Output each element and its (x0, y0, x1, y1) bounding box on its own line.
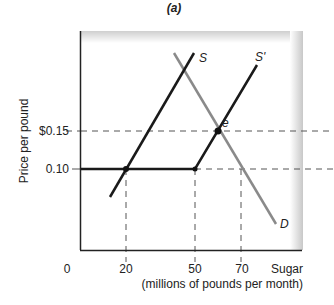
label-e: e (222, 116, 229, 130)
x-axis-label-line1: Sugar (271, 262, 303, 276)
panel-label: (a) (167, 1, 182, 15)
supply-curve-S-prime (81, 65, 257, 169)
point-20-0.10 (123, 166, 129, 172)
x-tick-70: 70 (235, 262, 249, 276)
label-S-prime: S' (255, 50, 266, 64)
y-tick-0.10: 0.10 (46, 162, 70, 176)
point-50-0.10 (193, 167, 198, 172)
x-tick-20: 20 (119, 262, 133, 276)
y-tick-0.15: $0.15 (39, 124, 69, 138)
x-tick-50: 50 (188, 262, 202, 276)
top-shade (81, 31, 302, 43)
supply-demand-chart: (a) S S' e D $0.15 0.10 Price per pound … (0, 0, 334, 305)
right-shade (290, 31, 303, 250)
label-D: D (280, 217, 289, 231)
x-axis-label-line2: (millions of pounds per month) (142, 277, 303, 291)
x-tick-0: 0 (64, 262, 71, 276)
label-S: S (199, 51, 207, 65)
demand-curve-D (174, 53, 276, 224)
supply-curve-S (110, 53, 194, 197)
point-e (215, 128, 222, 135)
y-axis-label: Price per pound (17, 99, 31, 184)
